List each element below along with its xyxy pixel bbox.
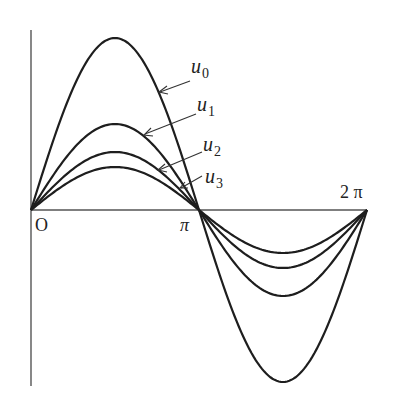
label-u1: u1: [197, 93, 215, 119]
arrow-u1: [144, 114, 196, 136]
annotation-arrows: [144, 81, 202, 188]
sine-curves-diagram: u0 u1 u2 u3 O π 2 π: [0, 0, 393, 409]
tick-2pi: 2 π: [340, 182, 363, 202]
label-u2: u2: [203, 133, 221, 159]
label-u3: u3: [205, 165, 223, 191]
arrow-u2: [158, 152, 202, 172]
arrow-u0: [159, 81, 190, 94]
label-u0: u0: [191, 55, 209, 81]
origin-label: O: [35, 215, 48, 235]
tick-pi: π: [180, 215, 190, 235]
